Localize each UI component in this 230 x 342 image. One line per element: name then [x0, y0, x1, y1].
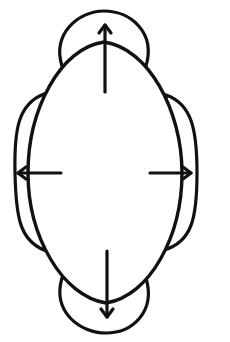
diagram-canvas — [0, 0, 230, 342]
diagram-svg — [0, 0, 230, 342]
